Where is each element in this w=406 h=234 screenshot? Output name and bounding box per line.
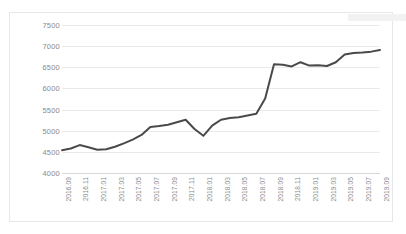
x-tick-label: 2019.01 <box>312 177 319 202</box>
x-tick-label: 2019.05 <box>347 177 354 202</box>
series-line <box>62 50 380 150</box>
y-axis: 75007000650060005500500045004000 <box>28 25 60 173</box>
y-tick-label: 7000 <box>43 42 61 51</box>
x-tick-label: 2017.01 <box>100 177 107 202</box>
x-tick-label: 2018.11 <box>294 177 301 201</box>
x-tick-label: 2018.07 <box>259 177 266 202</box>
x-tick-label: 2018.09 <box>277 177 284 202</box>
series-line-layer <box>62 25 380 173</box>
x-tick-label: 2018.01 <box>206 177 213 202</box>
y-tick-label: 7500 <box>43 21 61 30</box>
gridline-4000 <box>62 173 380 174</box>
x-tick-label: 2017.11 <box>188 177 195 201</box>
y-tick-label: 5000 <box>43 126 61 135</box>
y-tick-label: 6500 <box>43 63 61 72</box>
x-tick-label: 2018.03 <box>224 177 231 202</box>
x-tick-label: 2016.09 <box>65 177 72 202</box>
y-tick-label: 5500 <box>43 105 61 114</box>
x-tick-label: 2017.07 <box>153 177 160 202</box>
y-tick-label: 4500 <box>43 147 61 156</box>
y-tick-label: 6000 <box>43 84 61 93</box>
x-tick-label: 2017.05 <box>135 177 142 202</box>
y-tick-label: 4000 <box>43 169 61 178</box>
x-axis: 2016.092016.112017.012017.032017.052017.… <box>62 175 380 221</box>
line-chart: 75007000650060005500500045004000 2016.09… <box>10 13 394 223</box>
x-tick-label: 2019.09 <box>383 177 390 202</box>
x-tick-label: 2017.09 <box>171 177 178 202</box>
x-tick-label: 2017.03 <box>118 177 125 202</box>
x-tick-label: 2018.05 <box>241 177 248 202</box>
chart-card: 75007000650060005500500045004000 2016.09… <box>9 12 393 222</box>
x-tick-label: 2019.07 <box>365 177 372 202</box>
x-tick-label: 2019.03 <box>330 177 337 202</box>
x-tick-label: 2016.11 <box>82 177 89 201</box>
